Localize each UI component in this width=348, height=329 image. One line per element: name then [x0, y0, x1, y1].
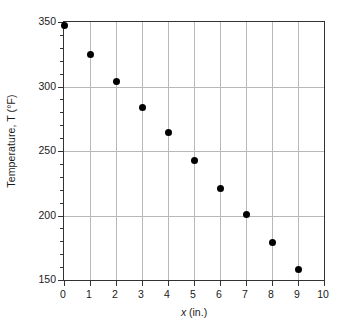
gridline-vertical	[168, 22, 169, 280]
x-axis-tick-label: 1	[86, 288, 92, 300]
data-point	[191, 157, 198, 164]
y-axis-tick-minor	[60, 203, 64, 204]
x-axis-tick-major	[194, 280, 195, 286]
y-axis-tick-major	[58, 87, 64, 88]
y-axis-tick-minor	[60, 35, 64, 36]
gridline-vertical	[90, 22, 91, 280]
y-axis-tick-major	[58, 151, 64, 152]
x-axis-tick-major	[298, 280, 299, 286]
x-axis-tick-major	[142, 280, 143, 286]
x-axis-tick-major	[324, 280, 325, 286]
y-axis-tick-labels: 150200250300350	[22, 21, 56, 281]
y-axis-title-container: Temperature, T (°F)	[0, 0, 22, 281]
y-axis-tick-label: 200	[38, 209, 56, 221]
x-axis-tick-major	[220, 280, 221, 286]
y-axis-tick-minor	[60, 164, 64, 165]
data-point	[87, 51, 94, 58]
gridline-vertical	[298, 22, 299, 280]
data-point	[295, 266, 302, 273]
y-axis-tick-label: 250	[38, 144, 56, 156]
x-axis-tick-label: 8	[268, 288, 274, 300]
data-point	[165, 129, 172, 136]
y-axis-tick-minor	[60, 177, 64, 178]
y-axis-tick-minor	[60, 48, 64, 49]
y-axis-tick-minor	[60, 61, 64, 62]
gridline-vertical	[220, 22, 221, 280]
y-axis-tick-minor	[60, 228, 64, 229]
y-axis-title: Temperature, T (°F)	[5, 94, 17, 187]
scatter-chart-figure: Temperature, T (°F) 150200250300350 0123…	[0, 0, 348, 329]
y-axis-tick-minor	[60, 190, 64, 191]
x-axis-tick-major	[246, 280, 247, 286]
y-axis-tick-minor	[60, 254, 64, 255]
data-point	[269, 239, 276, 246]
y-axis-tick-minor	[60, 74, 64, 75]
y-axis-tick-minor	[60, 138, 64, 139]
x-axis-tick-label: 9	[294, 288, 300, 300]
data-point	[61, 22, 68, 29]
x-axis-tick-label: 10	[317, 288, 329, 300]
gridline-vertical	[142, 22, 143, 280]
x-axis-tick-major	[272, 280, 273, 286]
y-axis-tick-major	[58, 216, 64, 217]
data-point	[243, 211, 250, 218]
data-point	[217, 185, 224, 192]
data-point	[113, 78, 120, 85]
x-axis-tick-label: 5	[190, 288, 196, 300]
x-axis-tick-label: 4	[164, 288, 170, 300]
x-axis-tick-major	[64, 280, 65, 286]
x-axis-tick-label: 2	[112, 288, 118, 300]
gridline-vertical	[246, 22, 247, 280]
y-axis-tick-label: 150	[38, 273, 56, 285]
x-axis-tick-label: 7	[242, 288, 248, 300]
x-axis-tick-labels: 012345678910	[63, 288, 325, 302]
x-axis-tick-label: 0	[60, 288, 66, 300]
x-axis-tick-major	[116, 280, 117, 286]
y-axis-tick-minor	[60, 112, 64, 113]
y-axis-tick-label: 350	[38, 15, 56, 27]
plot-area	[63, 21, 325, 281]
x-axis-title-units: (in.)	[186, 306, 207, 318]
x-axis-title: x (in.)	[63, 306, 325, 318]
x-axis-tick-major	[90, 280, 91, 286]
x-axis-tick-label: 6	[216, 288, 222, 300]
y-axis-tick-minor	[60, 99, 64, 100]
y-axis-tick-label: 300	[38, 80, 56, 92]
y-axis-tick-minor	[60, 125, 64, 126]
gridline-vertical	[194, 22, 195, 280]
y-axis-tick-minor	[60, 267, 64, 268]
data-point	[139, 104, 146, 111]
x-axis-tick-label: 3	[138, 288, 144, 300]
x-axis-tick-major	[168, 280, 169, 286]
y-axis-tick-minor	[60, 241, 64, 242]
gridline-vertical	[116, 22, 117, 280]
